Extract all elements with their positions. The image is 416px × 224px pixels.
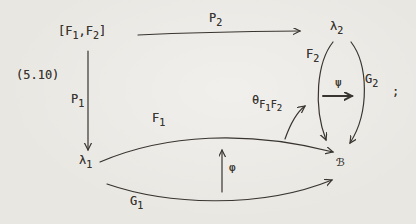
scanned-diagram-page: (5.10) [F1,F2] λ1 λ2 ℬ P2 P1 F1 F2 G1 G2… xyxy=(0,0,416,224)
label-F2: F2 xyxy=(306,47,319,62)
arrow-F2 xyxy=(318,42,333,140)
label-phi: φ xyxy=(229,161,236,175)
label-G1: G1 xyxy=(130,194,143,209)
label-P2: P2 xyxy=(209,11,222,26)
label-theta-F1F2: θF1F2 xyxy=(252,93,282,108)
node-comma-category: [F1,F2] xyxy=(58,24,106,39)
arrow-G2 xyxy=(350,42,364,143)
node-lambda-1: λ1 xyxy=(79,153,92,168)
equation-number: (5.10) xyxy=(16,68,59,82)
label-G2: G2 xyxy=(365,72,378,87)
arrow-F1 xyxy=(100,138,333,162)
arrow-theta xyxy=(285,106,305,139)
arrow-P2 xyxy=(138,31,300,35)
node-lambda-2: λ2 xyxy=(330,19,343,34)
label-P1: P1 xyxy=(71,92,84,107)
label-psi: ψ xyxy=(335,76,342,90)
terminal-punctuation: ; xyxy=(392,84,399,98)
label-F1: F1 xyxy=(152,111,165,126)
node-script-B: ℬ xyxy=(336,156,345,170)
